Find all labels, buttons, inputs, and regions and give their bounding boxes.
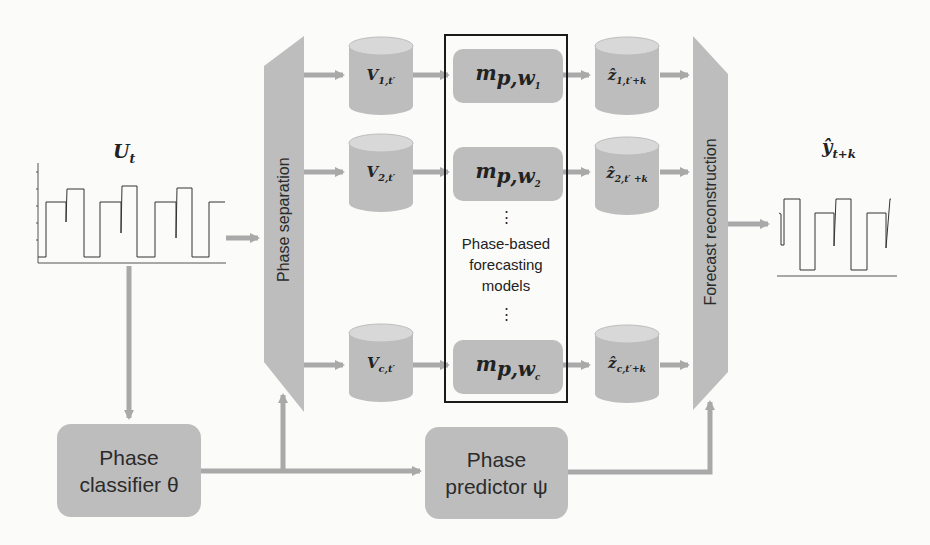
input-store-c: Vc,t′ <box>348 323 414 403</box>
model-box-c: mp,wc <box>453 340 563 394</box>
output-store-2: ẑ2,t′ +k <box>594 136 660 216</box>
phase-predictor-block: Phasepredictor ψ <box>425 427 568 519</box>
output-series-chart <box>777 199 897 276</box>
model-ellipsis-top: ⋮ <box>446 206 566 227</box>
output-store-c: ẑc,t′+k <box>594 324 660 404</box>
model-group-label-3: models <box>446 275 566 296</box>
phase-classifier-block: Phaseclassifier θ <box>57 424 201 517</box>
model-box-1: mp,w1 <box>453 49 563 103</box>
input-series-chart <box>36 163 226 263</box>
input-store-2: V2,t′ <box>348 133 414 213</box>
input-store-1: V1,t′ <box>348 36 414 116</box>
input-series-label: Ut <box>113 140 135 166</box>
forecast-reconstruction-label: Forecast reconstruction <box>702 129 720 315</box>
model-ellipsis-bottom: ⋮ <box>446 303 566 324</box>
phase-separation-label: Phase separation <box>275 162 293 282</box>
model-group-label-2: forecasting <box>446 254 566 275</box>
output-store-1: ẑ1,t′+k <box>594 36 660 116</box>
output-series-label: ŷt+k <box>822 136 856 161</box>
model-group-label-1: Phase-based <box>446 233 566 254</box>
model-box-2: mp,w2 <box>453 147 563 201</box>
